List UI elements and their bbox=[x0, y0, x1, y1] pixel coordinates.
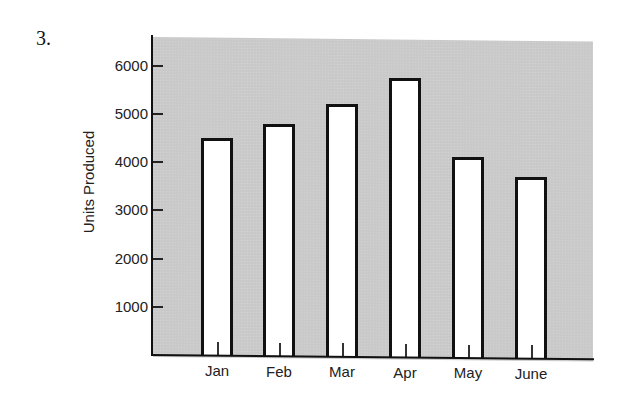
y-tick-mark bbox=[153, 306, 163, 308]
problem-number: 3. bbox=[36, 27, 51, 50]
bar-june bbox=[515, 177, 547, 359]
bar-feb bbox=[263, 124, 295, 356]
y-tick-label: 2000 bbox=[88, 250, 148, 267]
bar-apr bbox=[389, 78, 421, 357]
x-tick-label: June bbox=[501, 365, 561, 382]
y-tick-label: 4000 bbox=[88, 153, 148, 170]
y-tick-mark bbox=[153, 258, 163, 260]
x-tick-mark bbox=[531, 345, 533, 358]
y-tick-label: 6000 bbox=[88, 57, 148, 74]
x-tick-label: Mar bbox=[312, 363, 372, 380]
bar-mar bbox=[326, 104, 358, 356]
y-axis-line bbox=[151, 35, 153, 356]
y-tick-label: 5000 bbox=[88, 105, 148, 122]
x-tick-mark bbox=[405, 344, 407, 357]
x-tick-mark bbox=[468, 345, 470, 358]
x-tick-mark bbox=[217, 342, 219, 355]
x-tick-label: Jan bbox=[187, 362, 247, 379]
y-tick-label: 3000 bbox=[88, 201, 148, 218]
x-tick-label: May bbox=[438, 364, 498, 381]
y-tick-label: 1000 bbox=[88, 298, 148, 315]
bar-may bbox=[452, 157, 484, 357]
bar-jan bbox=[201, 138, 233, 355]
y-tick-mark bbox=[153, 113, 163, 115]
y-tick-mark bbox=[153, 161, 163, 163]
y-tick-mark bbox=[153, 65, 163, 67]
x-tick-label: Feb bbox=[249, 363, 309, 380]
y-tick-mark bbox=[153, 209, 163, 211]
x-tick-mark bbox=[342, 343, 344, 356]
x-tick-label: Apr bbox=[375, 364, 435, 381]
x-tick-mark bbox=[279, 343, 281, 356]
